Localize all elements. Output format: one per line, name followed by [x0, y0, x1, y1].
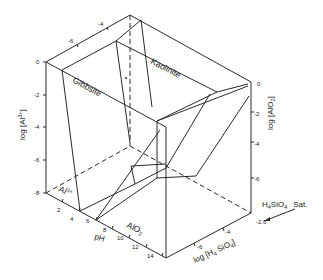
- silica-axis-label: log [H4 SiO4]: [192, 238, 237, 266]
- silica-tick-1: -4: [225, 229, 231, 235]
- region-labels: Gibbsite Kaolinite Al3+ AlO2: [57, 56, 183, 237]
- silica-tick-0: -2.6: [256, 219, 267, 225]
- saturation-annotation: H4SiO4Sat.: [262, 200, 307, 221]
- left-tick-3: -6: [34, 157, 40, 163]
- left-axis: 0 -2 -4 -6 -8 log [Al3+]: [17, 59, 46, 196]
- left-tick-0: 0: [36, 59, 40, 65]
- left-tick-2: -4: [34, 124, 40, 130]
- silica-axis: -2.6 -4 -6 log [H4 SiO4] -4 -6: [68, 21, 267, 266]
- right-tick-1: -2: [254, 111, 260, 117]
- right-tick-3: -6: [254, 176, 260, 182]
- ph-tick-5: 12: [132, 244, 139, 250]
- stability-diagram: 0 -2 -4 -6 -8 log [Al3+] 0 -2 -4 -6 log …: [0, 0, 323, 280]
- silica-tick-2: -6: [197, 244, 203, 250]
- saturation-label: H4SiO4Sat.: [262, 200, 307, 210]
- box-frame: [46, 15, 251, 258]
- right-axis-label: log [AlO2]: [266, 96, 276, 130]
- ph-tick-4: 10: [117, 235, 124, 241]
- ph-tick-0: 2: [57, 207, 61, 213]
- right-tick-0: 0: [257, 81, 261, 87]
- left-axis-label: log [Al3+]: [17, 109, 27, 140]
- gibbsite-label: Gibbsite: [71, 75, 103, 99]
- left-tick-4: -8: [34, 190, 40, 196]
- kaolinite-label: Kaolinite: [149, 56, 183, 80]
- al3-region-label: Al3+: [57, 184, 74, 199]
- ph-tick-2: 6: [86, 218, 90, 224]
- silica-top-tick-1: -6: [68, 38, 74, 44]
- ph-axis-label: pH: [93, 232, 105, 243]
- right-tick-2: -4: [254, 141, 260, 147]
- silica-top-tick-0: -4: [98, 21, 104, 27]
- phase-boundaries: [62, 20, 249, 220]
- ph-tick-1: 4: [70, 216, 74, 222]
- right-axis: 0 -2 -4 -6 log [AlO2]: [251, 81, 276, 182]
- left-tick-1: -2: [34, 92, 40, 98]
- alo2-region-label: AlO2: [125, 220, 145, 237]
- ph-tick-3: 8: [103, 227, 107, 233]
- ph-tick-6: 14: [147, 253, 154, 259]
